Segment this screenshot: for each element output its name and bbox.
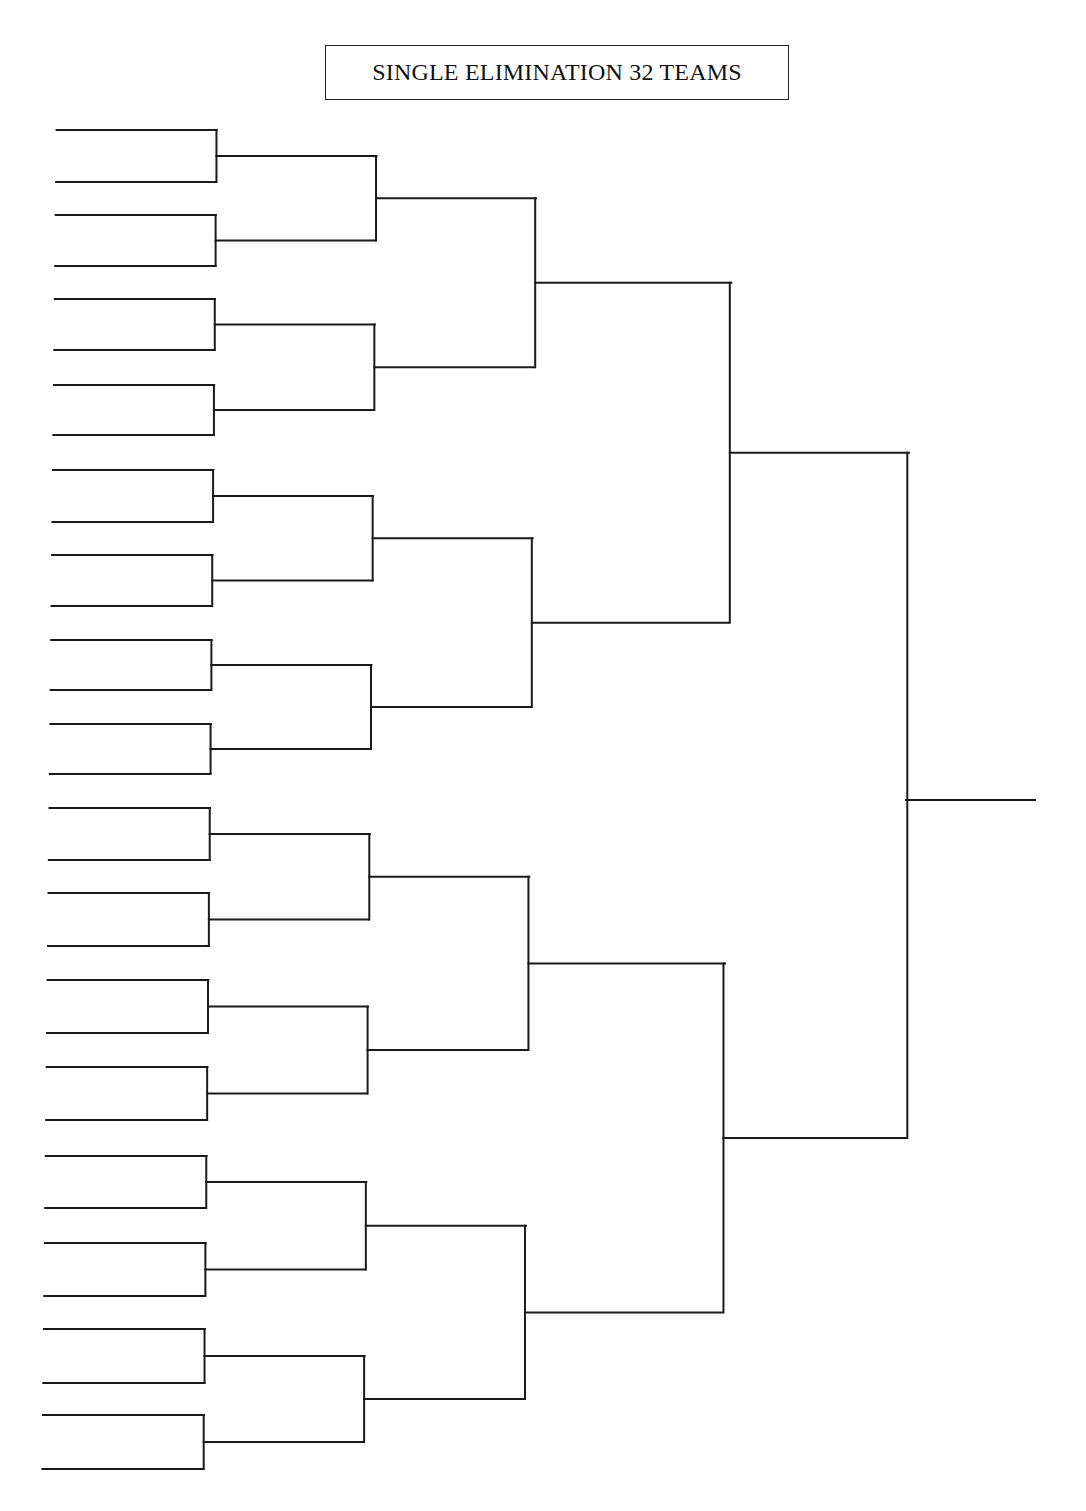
bracket-lines [42,130,1035,1469]
tournament-bracket [0,0,1086,1511]
